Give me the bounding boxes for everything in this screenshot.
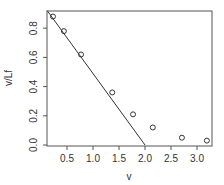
x-tick-label: 2.0: [138, 153, 152, 164]
fitted-line: [47, 11, 145, 145]
x-axis-label: v: [127, 171, 132, 182]
plot-frame: [47, 11, 212, 146]
x-tick-label: 1.5: [112, 153, 126, 164]
y-tick-label: 0.8: [28, 21, 39, 35]
x-axis: 0.51.01.52.02.53.0: [60, 146, 204, 164]
y-tick-label: 0.2: [28, 108, 39, 122]
data-point: [131, 112, 136, 117]
x-tick-label: 1.0: [86, 153, 100, 164]
fit-line-segment: [47, 11, 145, 145]
x-tick-label: 3.0: [190, 153, 204, 164]
x-tick-label: 2.5: [164, 153, 178, 164]
y-tick-label: 0.4: [28, 79, 39, 93]
y-tick-label: 0.6: [28, 50, 39, 64]
data-point: [110, 90, 115, 95]
scatter-plot: 0.51.01.52.02.53.0 0.00.20.40.60.8 v v/L…: [0, 0, 224, 185]
y-axis: 0.00.20.40.60.8: [28, 21, 47, 152]
y-axis-label: v/Lf: [3, 70, 14, 86]
data-point: [150, 125, 155, 130]
data-point: [204, 138, 209, 143]
x-tick-label: 0.5: [60, 153, 74, 164]
data-point: [179, 135, 184, 140]
y-tick-label: 0.0: [28, 138, 39, 152]
